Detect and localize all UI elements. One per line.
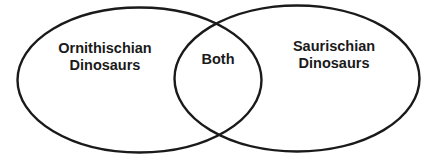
saurischian-label-line1: Saurischian xyxy=(293,38,375,55)
intersection-label: Both xyxy=(201,51,234,68)
both-label: Both xyxy=(201,51,234,68)
saurischian-label-line2: Dinosaurs xyxy=(293,55,375,72)
ornithischian-label-line2: Dinosaurs xyxy=(58,57,151,74)
saurischian-label: Saurischian Dinosaurs xyxy=(293,38,375,72)
ornithischian-label-line1: Ornithischian xyxy=(58,40,151,57)
ornithischian-ellipse xyxy=(18,8,262,153)
venn-diagram xyxy=(0,0,429,164)
saurischian-ellipse xyxy=(175,6,420,152)
ornithischian-label: Ornithischian Dinosaurs xyxy=(58,40,151,74)
